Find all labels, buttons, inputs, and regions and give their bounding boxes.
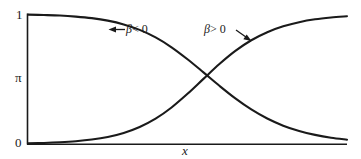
annotation-beta-negative: β< 0 bbox=[126, 23, 148, 35]
annotation-beta-negative-relation: < 0 bbox=[132, 22, 148, 36]
annotation-beta-positive-relation: > 0 bbox=[210, 22, 226, 36]
arrow-beta-positive bbox=[236, 30, 252, 41]
arrow-beta-negative bbox=[109, 27, 126, 33]
y-axis-bottom-tick-label: 0 bbox=[15, 136, 22, 149]
plot-canvas bbox=[0, 0, 361, 159]
x-axis-title: x bbox=[182, 144, 188, 157]
curve-beta-positive bbox=[28, 16, 347, 143]
y-axis-top-tick-label: 1 bbox=[16, 8, 23, 21]
y-axis-title: π bbox=[15, 71, 22, 84]
annotation-beta-positive: β> 0 bbox=[204, 23, 226, 35]
logistic-curve-figure: 1 π 0 x β< 0 β> 0 bbox=[0, 0, 361, 159]
curve-beta-negative bbox=[28, 15, 347, 140]
